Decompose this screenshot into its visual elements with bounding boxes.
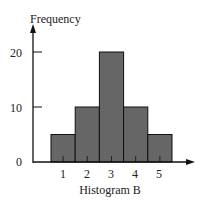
x-tick-label: 1: [60, 167, 66, 181]
histogram-bar: [124, 107, 148, 162]
y-axis-label: Frequency: [30, 12, 81, 26]
x-tick-label: 3: [108, 167, 114, 181]
histogram-chart: 20 10 0 1 2 3 4 5 Frequency Histogram B: [0, 0, 204, 207]
bars: [51, 52, 172, 162]
x-tick-label: 5: [156, 167, 162, 181]
x-tick-label: 4: [132, 167, 138, 181]
x-tick-label: 2: [84, 167, 90, 181]
histogram-bar: [99, 52, 123, 162]
x-axis-label: Histogram B: [79, 183, 141, 197]
y-tick-label: 0: [16, 155, 22, 169]
y-tick-label: 20: [10, 46, 22, 60]
histogram-bar: [75, 107, 99, 162]
y-tick-label: 10: [10, 101, 22, 115]
x-axis-arrow-icon: [186, 159, 195, 165]
